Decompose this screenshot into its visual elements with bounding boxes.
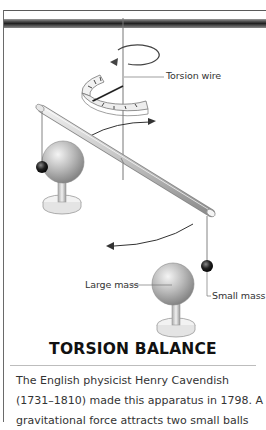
left-large-mass — [42, 141, 84, 214]
rotation-arrow-icon — [110, 45, 159, 66]
right-large-mass — [152, 263, 195, 337]
body-line: gravitational force attracts two small b… — [16, 411, 261, 430]
right-small-mass — [201, 216, 213, 272]
section-title: TORSION BALANCE — [0, 340, 266, 358]
curved-arrow-left-icon — [106, 224, 193, 250]
title-divider — [10, 365, 256, 366]
label-torsion-wire: Torsion wire — [166, 70, 221, 81]
body-line: The English physicist Henry Cavendish — [16, 371, 261, 391]
body-line: (1731–1810) made this apparatus in 1798.… — [16, 391, 261, 411]
left-small-mass — [36, 112, 48, 173]
label-small-mass: Small mass — [212, 290, 265, 301]
body-text: The English physicist Henry Cavendish (1… — [16, 371, 261, 430]
label-large-mass: Large mass — [85, 279, 139, 290]
scale-dial — [82, 75, 148, 116]
